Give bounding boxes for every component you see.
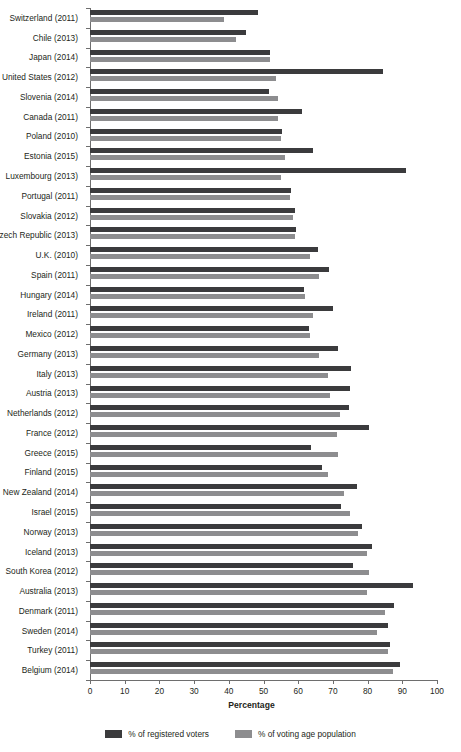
table-row bbox=[90, 384, 437, 404]
legend-item-registered-voters: % of registered voters bbox=[105, 729, 209, 739]
bar-registered-voters bbox=[90, 227, 296, 232]
y-axis-label: Iceland (2013) bbox=[25, 547, 78, 557]
bar-registered-voters bbox=[90, 366, 351, 371]
bar-registered-voters bbox=[90, 425, 369, 430]
y-axis-label: France (2012) bbox=[26, 428, 78, 438]
table-row bbox=[90, 166, 437, 186]
bar-rows bbox=[90, 8, 437, 680]
bar-voting-age-population bbox=[90, 432, 337, 437]
y-axis-label: Netherlands (2012) bbox=[7, 408, 78, 418]
y-axis-label: Switzerland (2011) bbox=[9, 13, 78, 23]
table-row bbox=[90, 48, 437, 68]
legend-item-voting-age-population: % of voting age population bbox=[235, 729, 356, 739]
x-axis-tick bbox=[333, 680, 334, 684]
x-axis-tick bbox=[90, 680, 91, 684]
table-row bbox=[90, 482, 437, 502]
bar-registered-voters bbox=[90, 603, 394, 608]
bar-voting-age-population bbox=[90, 511, 350, 516]
bar-registered-voters bbox=[90, 445, 311, 450]
y-axis-label: Mexico (2012) bbox=[25, 329, 78, 339]
x-axis-tick bbox=[402, 680, 403, 684]
y-axis-label: Chile (2013) bbox=[33, 33, 78, 43]
y-axis-label: New Zealand (2014) bbox=[3, 487, 78, 497]
y-axis-label: Italy (2013) bbox=[36, 369, 78, 379]
y-axis-label: South Korea (2012) bbox=[6, 566, 78, 576]
bar-registered-voters bbox=[90, 346, 338, 351]
x-axis-tick-label: 50 bbox=[252, 686, 276, 696]
bar-registered-voters bbox=[90, 662, 400, 667]
bar-voting-age-population bbox=[90, 37, 236, 42]
bar-registered-voters bbox=[90, 267, 329, 272]
bar-voting-age-population bbox=[90, 570, 369, 575]
x-axis-tick bbox=[264, 680, 265, 684]
table-row bbox=[90, 423, 437, 443]
plot-area bbox=[90, 8, 437, 680]
bar-voting-age-population bbox=[90, 175, 281, 180]
bar-registered-voters bbox=[90, 465, 322, 470]
bar-registered-voters bbox=[90, 69, 383, 74]
bar-voting-age-population bbox=[90, 669, 393, 674]
table-row bbox=[90, 67, 437, 87]
table-row bbox=[90, 502, 437, 522]
bar-registered-voters bbox=[90, 30, 246, 35]
y-axis-label: Austria (2013) bbox=[26, 388, 78, 398]
y-axis-label: Poland (2010) bbox=[26, 131, 78, 141]
bar-registered-voters bbox=[90, 326, 309, 331]
y-axis-label: Germany (2013) bbox=[18, 349, 78, 359]
bar-voting-age-population bbox=[90, 551, 367, 556]
table-row bbox=[90, 8, 437, 28]
table-row bbox=[90, 403, 437, 423]
table-row bbox=[90, 324, 437, 344]
bar-voting-age-population bbox=[90, 491, 344, 496]
y-axis-label: Luxembourg (2013) bbox=[6, 171, 78, 181]
bar-registered-voters bbox=[90, 642, 390, 647]
bar-registered-voters bbox=[90, 563, 353, 568]
bar-voting-age-population bbox=[90, 215, 293, 220]
bar-voting-age-population bbox=[90, 393, 330, 398]
x-axis-ticks: 0102030405060708090100 bbox=[0, 680, 461, 700]
y-axis-label: Denmark (2011) bbox=[19, 606, 78, 616]
y-axis-label: Canada (2011) bbox=[23, 112, 78, 122]
bar-voting-age-population bbox=[90, 76, 276, 81]
bar-voting-age-population bbox=[90, 116, 278, 121]
bar-voting-age-population bbox=[90, 649, 388, 654]
table-row bbox=[90, 206, 437, 226]
table-row bbox=[90, 581, 437, 601]
x-axis-tick-label: 70 bbox=[321, 686, 345, 696]
bar-voting-age-population bbox=[90, 57, 270, 62]
bar-registered-voters bbox=[90, 504, 341, 509]
x-axis-title: Percentage bbox=[0, 700, 461, 710]
y-axis-label: Estonia (2015) bbox=[24, 151, 78, 161]
table-row bbox=[90, 127, 437, 147]
y-axis-label: Belgium (2014) bbox=[22, 665, 78, 675]
bar-voting-age-population bbox=[90, 412, 340, 417]
bar-voting-age-population bbox=[90, 452, 338, 457]
y-axis-category-labels: Switzerland (2011)Chile (2013)Japan (201… bbox=[0, 8, 86, 680]
legend-label-registered-voters: % of registered voters bbox=[128, 729, 209, 739]
table-row bbox=[90, 87, 437, 107]
y-axis-label: Norway (2013) bbox=[24, 527, 78, 537]
y-axis-label: Ireland (2011) bbox=[27, 309, 78, 319]
y-axis-label: Finland (2015) bbox=[24, 467, 78, 477]
bar-voting-age-population bbox=[90, 353, 319, 358]
bar-voting-age-population bbox=[90, 136, 281, 141]
bar-voting-age-population bbox=[90, 610, 385, 615]
bar-registered-voters bbox=[90, 188, 291, 193]
y-axis-label: United States (2012) bbox=[2, 72, 78, 82]
y-axis-label: Slovenia (2014) bbox=[20, 92, 78, 102]
x-axis-tick-label: 0 bbox=[78, 686, 102, 696]
bar-registered-voters bbox=[90, 168, 406, 173]
x-axis-tick bbox=[437, 680, 438, 684]
x-axis-tick bbox=[298, 680, 299, 684]
bar-voting-age-population bbox=[90, 274, 319, 279]
x-axis-tick-label: 60 bbox=[286, 686, 310, 696]
x-axis-tick bbox=[159, 680, 160, 684]
y-axis-label: Greece (2015) bbox=[25, 448, 79, 458]
y-axis-label: Australia (2013) bbox=[19, 586, 78, 596]
y-axis-label: U.K. (2010) bbox=[36, 250, 78, 260]
voter-turnout-bar-chart: Switzerland (2011)Chile (2013)Japan (201… bbox=[0, 0, 461, 752]
bar-voting-age-population bbox=[90, 234, 295, 239]
x-axis-tick bbox=[229, 680, 230, 684]
y-axis-label: Hungary (2014) bbox=[20, 290, 78, 300]
bar-registered-voters bbox=[90, 89, 269, 94]
